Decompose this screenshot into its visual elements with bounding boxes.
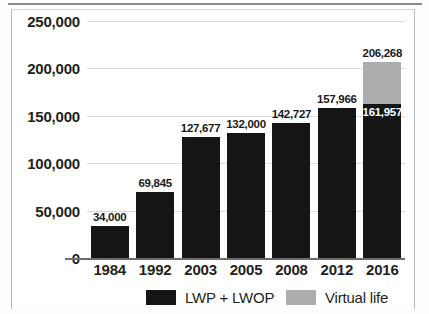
bar-group[interactable]: 157,966 bbox=[318, 21, 356, 258]
legend-swatch bbox=[146, 290, 176, 305]
bar-segment-lwp-lwop[interactable] bbox=[91, 226, 129, 258]
bar-group[interactable]: 206,268161,957 bbox=[363, 21, 401, 258]
x-axis-tick-label: 2012 bbox=[321, 261, 354, 278]
x-axis-line bbox=[65, 258, 405, 260]
bar-segment-lwp-lwop[interactable] bbox=[136, 192, 174, 258]
page-top-rule bbox=[8, 3, 422, 5]
y-axis-tick-label: 250,000 bbox=[27, 13, 80, 30]
y-axis-tick-label: 150,000 bbox=[27, 107, 80, 124]
bar-value-label: 142,727 bbox=[272, 108, 311, 120]
x-axis-tick-label: 2016 bbox=[366, 261, 399, 278]
y-axis-tick-label: 50,000 bbox=[35, 202, 80, 219]
bar-group[interactable]: 127,677 bbox=[182, 21, 220, 258]
bar-segment-lwp-lwop[interactable] bbox=[272, 123, 310, 258]
bar-value-label: 69,845 bbox=[138, 177, 171, 189]
bar-segment-lwp-lwop[interactable] bbox=[363, 104, 401, 258]
bar-segment-lwp-lwop[interactable] bbox=[318, 108, 356, 258]
bar-group[interactable]: 34,000 bbox=[91, 21, 129, 258]
bar-group[interactable]: 69,845 bbox=[136, 21, 174, 258]
x-axis-tick-label: 2003 bbox=[184, 261, 217, 278]
bar-value-label: 34,000 bbox=[93, 211, 126, 223]
legend-swatch bbox=[286, 290, 316, 305]
legend-label: Virtual life bbox=[325, 289, 388, 306]
y-axis-tick-label: 200,000 bbox=[27, 60, 80, 77]
bar-segment-lwp-lwop[interactable] bbox=[227, 133, 265, 258]
legend-label: LWP + LWOP bbox=[185, 289, 274, 306]
bar-value-label: 161,957 bbox=[363, 106, 402, 118]
bar-group[interactable]: 132,000 bbox=[227, 21, 265, 258]
bar-segment-lwp-lwop[interactable] bbox=[182, 137, 220, 258]
bar-group[interactable]: 142,727 bbox=[272, 21, 310, 258]
bar-value-label: 157,966 bbox=[317, 93, 356, 105]
chart-legend: LWP + LWOPVirtual life bbox=[11, 289, 415, 311]
bar-value-label: 127,677 bbox=[181, 122, 220, 134]
x-axis-tick-label: 2008 bbox=[275, 261, 308, 278]
bar-segment-virtual-life[interactable] bbox=[363, 62, 401, 104]
legend-item[interactable]: Virtual life bbox=[286, 289, 388, 306]
legend-item[interactable]: LWP + LWOP bbox=[146, 289, 274, 306]
x-axis-tick-label: 1992 bbox=[139, 261, 172, 278]
chart-figure: 050,000100,000150,000200,000250,000 34,0… bbox=[0, 0, 429, 314]
y-axis-tick-label: 100,000 bbox=[27, 155, 80, 172]
plot-area: 34,00069,845127,677132,000142,727157,966… bbox=[87, 21, 405, 258]
x-axis-tick-label: 2005 bbox=[230, 261, 263, 278]
bar-total-label: 206,268 bbox=[363, 47, 402, 59]
x-axis-labels: 1984199220032005200820122016 bbox=[87, 261, 405, 285]
x-axis-tick-label: 1984 bbox=[93, 261, 126, 278]
y-axis-labels: 050,000100,000150,000200,000250,000 bbox=[0, 21, 80, 258]
bar-value-label: 132,000 bbox=[226, 118, 265, 130]
